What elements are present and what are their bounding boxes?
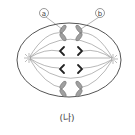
chromosomes-black [60,47,82,73]
svg-text:a: a [42,10,46,18]
svg-text:b: b [98,10,103,18]
caption: (나) [59,113,74,123]
spindle-fibers [29,33,113,88]
cell-diagram: a b (나) [0,0,135,135]
centrosome-left [24,53,30,63]
label-a: a [40,9,49,18]
centrosome-right [112,54,118,64]
label-b: b [96,9,105,18]
chromosome-grey-bottom-left [59,80,67,98]
chromosome-grey-bottom-right [75,80,83,98]
diagram: a b (나) [0,0,135,135]
